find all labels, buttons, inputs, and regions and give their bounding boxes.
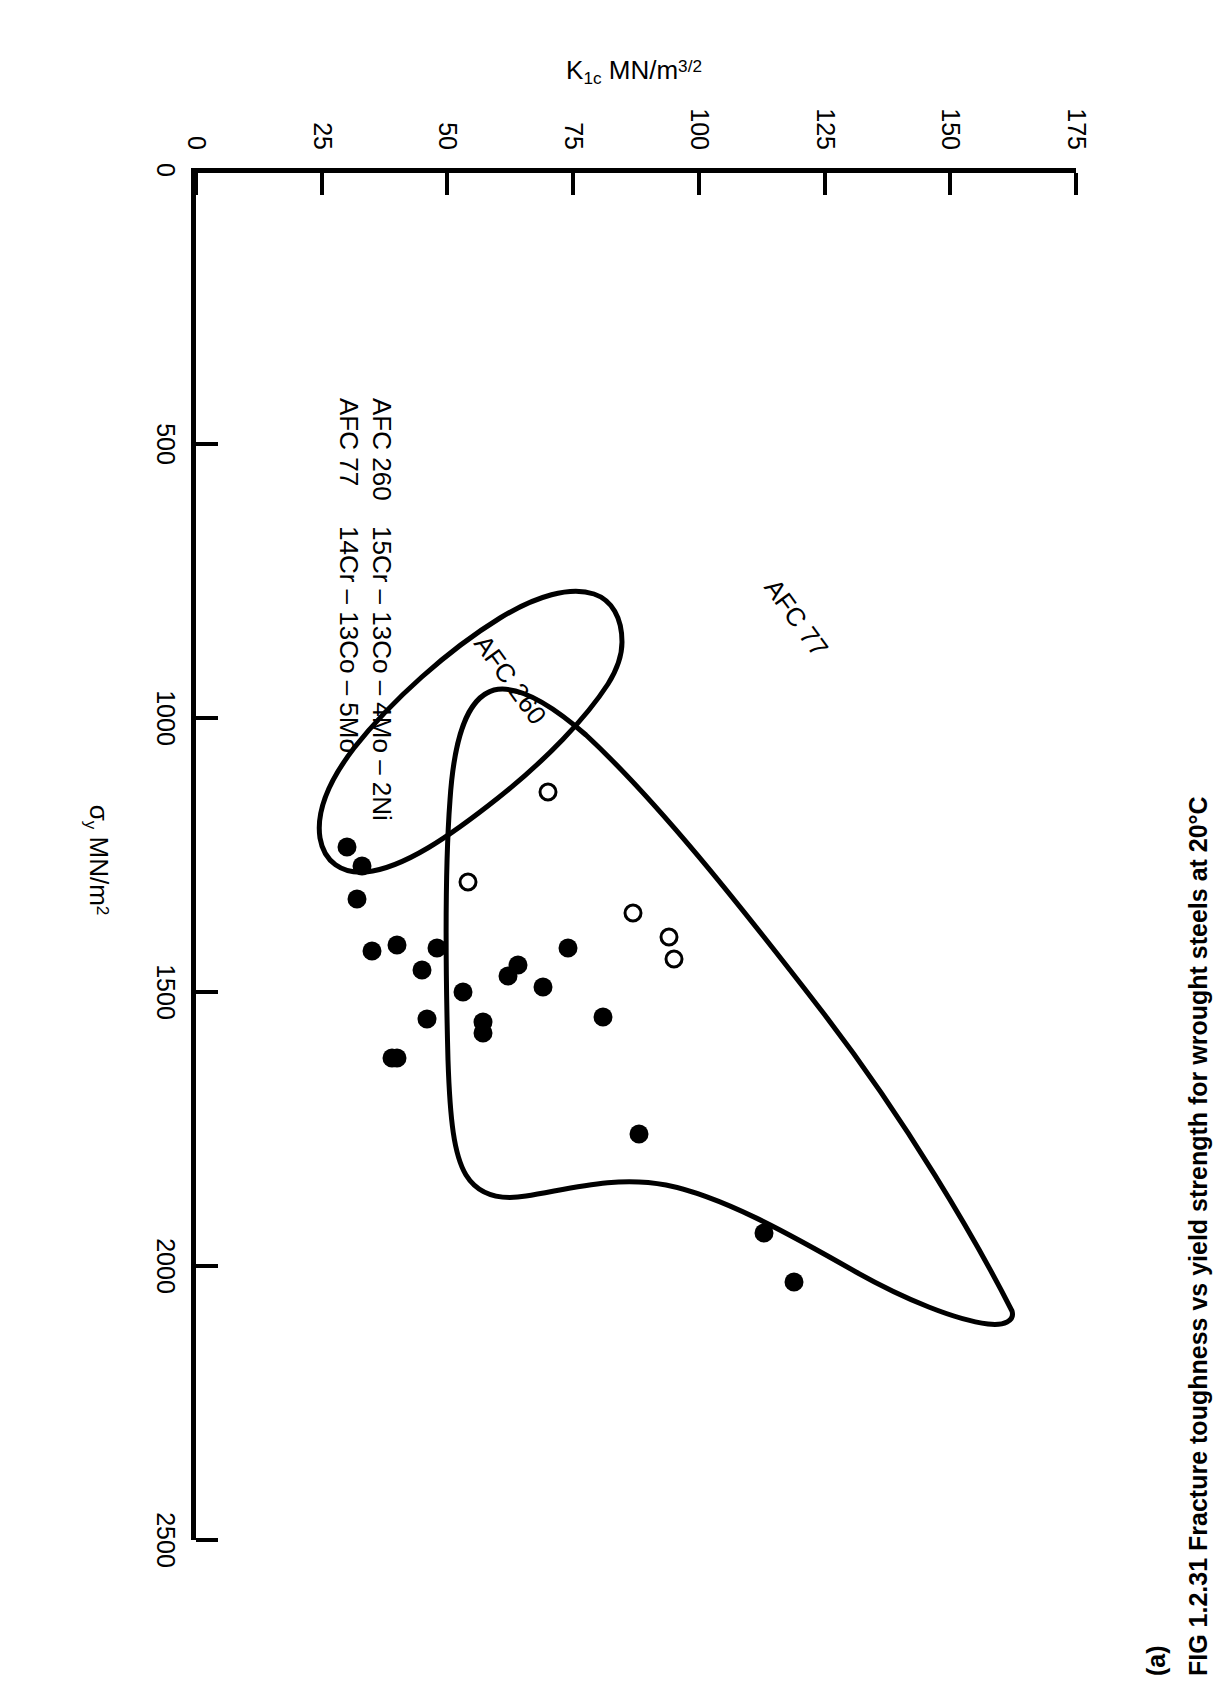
figure-caption: FIG 1.2.31 Fracture toughness vs yield s… [1184, 796, 1213, 1676]
y-tick-mark [194, 173, 198, 195]
x-tick-mark [196, 168, 218, 172]
legend-row: AFC 77 14Cr – 13Co – 5Mo [331, 398, 364, 821]
data-point-afc-77 [629, 1125, 648, 1144]
data-point-afc-77 [383, 1048, 402, 1067]
y-tick-label: 150 [936, 60, 965, 150]
data-point-afc-77 [755, 1224, 774, 1243]
plot-area: 05001000150020002500 0255075100125150175… [0, 0, 1226, 1696]
envelope-afc77 [446, 689, 1012, 1324]
annotation-afc260: AFC 260 [467, 629, 552, 730]
y-tick-label: 25 [307, 60, 336, 150]
data-point-afc-77 [428, 939, 447, 958]
y-tick-mark [445, 173, 449, 195]
data-point-afc-77 [559, 939, 578, 958]
y-axis-title: K1c MN/m3/2 [566, 55, 702, 89]
y-tick-label: 175 [1062, 60, 1091, 150]
y-axis-line [191, 168, 1076, 173]
x-tick-mark [196, 1264, 218, 1268]
data-point-afc-260 [664, 950, 683, 969]
annotation-afc77: AFC 77 [758, 573, 835, 663]
x-tick-label: 500 [151, 423, 180, 465]
data-point-afc-77 [418, 1010, 437, 1029]
data-point-afc-77 [352, 856, 371, 875]
data-point-afc-77 [388, 936, 407, 955]
legend-composition: 15Cr – 13Co – 4Mo – 2Ni [365, 526, 398, 821]
data-point-afc-77 [785, 1273, 804, 1292]
data-point-afc-77 [473, 1024, 492, 1043]
data-point-afc-260 [539, 782, 558, 801]
x-axis-title: σy MN/m2 [80, 805, 114, 916]
y-tick-mark [320, 173, 324, 195]
y-tick-label: 125 [810, 60, 839, 150]
legend-name: AFC 260 [365, 398, 398, 526]
data-point-afc-260 [624, 903, 643, 922]
y-tick-label: 0 [182, 60, 211, 150]
legend: AFC 260 15Cr – 13Co – 4Mo – 2Ni AFC 77 1… [331, 398, 398, 821]
data-point-afc-77 [363, 941, 382, 960]
x-tick-label: 1500 [151, 964, 180, 1020]
x-tick-label: 1000 [151, 690, 180, 746]
data-point-afc-77 [498, 966, 517, 985]
data-point-afc-77 [337, 837, 356, 856]
x-tick-mark [196, 442, 218, 446]
figure-page: 05001000150020002500 0255075100125150175… [0, 0, 1226, 1696]
legend-composition: 14Cr – 13Co – 5Mo [331, 526, 364, 753]
data-point-afc-260 [458, 873, 477, 892]
legend-name: AFC 77 [331, 398, 364, 526]
panel-letter: (a) [1142, 1645, 1171, 1676]
data-point-afc-77 [347, 889, 366, 908]
x-axis-line [191, 168, 196, 1540]
y-tick-label: 50 [433, 60, 462, 150]
data-point-afc-260 [659, 928, 678, 947]
y-tick-mark [697, 173, 701, 195]
x-tick-mark [196, 1538, 218, 1542]
x-tick-label: 0 [151, 163, 180, 177]
x-tick-mark [196, 716, 218, 720]
x-tick-label: 2500 [151, 1512, 180, 1568]
data-point-afc-77 [594, 1007, 613, 1026]
y-tick-mark [1074, 173, 1078, 195]
data-point-afc-77 [533, 977, 552, 996]
y-tick-mark [571, 173, 575, 195]
data-point-afc-77 [413, 961, 432, 980]
x-tick-label: 2000 [151, 1238, 180, 1294]
y-tick-mark [948, 173, 952, 195]
y-tick-mark [823, 173, 827, 195]
rotated-figure-container: 05001000150020002500 0255075100125150175… [0, 0, 1226, 1696]
legend-row: AFC 260 15Cr – 13Co – 4Mo – 2Ni [365, 398, 398, 821]
data-point-afc-77 [453, 983, 472, 1002]
x-tick-mark [196, 990, 218, 994]
envelope-outlines [0, 0, 1226, 1696]
